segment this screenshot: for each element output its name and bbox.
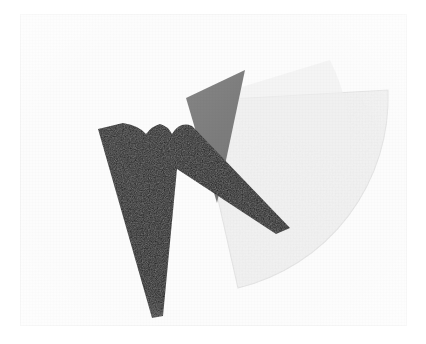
artboard: Abstract Geometric Composition: [0, 0, 426, 344]
composition-canvas: [0, 0, 426, 344]
